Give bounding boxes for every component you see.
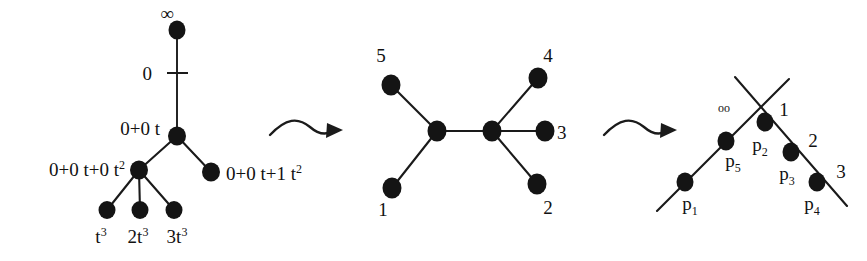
label-level2-left: 0+0 t+0 t2 bbox=[49, 158, 125, 180]
figure-root: ∞ 0 0+0 t 0+0 t+0 t2 0+0 t+1 t2 t3 2t3 3… bbox=[0, 0, 867, 261]
middle-label-2: 2 bbox=[543, 197, 553, 218]
label-leaf2-base: 2t bbox=[128, 226, 144, 247]
label-leaf2-exponent: 3 bbox=[142, 225, 148, 239]
label-level2-right: 0+0 t+1 t2 bbox=[226, 162, 302, 184]
label-leaf1: t3 bbox=[95, 225, 106, 247]
label-point-p2: p2 bbox=[752, 134, 768, 159]
label-point-p4-subscript: 4 bbox=[814, 204, 820, 218]
panel-left-tree: ∞ 0 0+0 t 0+0 t+0 t2 0+0 t+1 t2 t3 2t3 3… bbox=[0, 0, 867, 261]
label-root-infinity: ∞ bbox=[160, 3, 174, 24]
tree-node-leaf1 bbox=[99, 201, 116, 219]
label-root-edge-zero: 0 bbox=[143, 63, 153, 84]
label-point-p1-subscript: 1 bbox=[692, 204, 698, 218]
label-line-1: 1 bbox=[779, 99, 789, 120]
point-p3 bbox=[783, 143, 800, 162]
tree-node-leaf2 bbox=[132, 201, 149, 219]
label-point-p3-base: p bbox=[779, 163, 789, 184]
middle-node-center-left bbox=[428, 121, 447, 142]
label-level1: 0+0 t bbox=[120, 118, 160, 139]
label-level2-right-base: 0+0 t+1 t bbox=[226, 163, 297, 184]
label-point-p5: p5 bbox=[725, 150, 741, 175]
point-p5 bbox=[718, 132, 735, 151]
tree-node-v1 bbox=[168, 127, 186, 146]
edge-c2-n2 bbox=[492, 131, 537, 184]
label-point-p1-base: p bbox=[682, 193, 692, 214]
label-point-p5-subscript: 5 bbox=[735, 161, 741, 175]
tree-node-v3 bbox=[202, 163, 220, 182]
middle-tree-nodes bbox=[382, 68, 555, 199]
middle-node-1 bbox=[383, 178, 402, 199]
label-point-p4-base: p bbox=[804, 193, 814, 214]
label-level2-right-exponent: 2 bbox=[296, 162, 302, 176]
label-level2-left-base: 0+0 t+0 t bbox=[49, 159, 120, 180]
middle-node-5 bbox=[382, 75, 401, 96]
middle-label-5: 5 bbox=[376, 45, 386, 66]
label-point-p3-subscript: 3 bbox=[789, 174, 795, 188]
middle-node-center-right bbox=[483, 121, 502, 142]
point-p1 bbox=[677, 173, 694, 192]
middle-tree-edges bbox=[391, 78, 545, 188]
panel-right-lines: oo 1 2 3 p1 p5 p2 p3 p4 bbox=[657, 77, 847, 218]
right-line-nodes bbox=[677, 113, 826, 192]
middle-label-1: 1 bbox=[378, 199, 388, 220]
middle-label-4: 4 bbox=[543, 45, 553, 66]
label-level2-left-exponent: 2 bbox=[119, 158, 125, 172]
label-line-2: 2 bbox=[808, 130, 818, 151]
label-leaf3: 3t3 bbox=[167, 225, 188, 247]
label-leaf2: 2t3 bbox=[128, 225, 149, 247]
label-point-p2-base: p bbox=[752, 134, 762, 155]
arrow-left-to-middle-icon bbox=[270, 121, 343, 138]
arrow-middle-to-right-icon bbox=[604, 121, 677, 138]
label-point-p1: p1 bbox=[682, 193, 698, 218]
point-p2 bbox=[757, 113, 774, 132]
edge-n1-c1 bbox=[392, 131, 437, 188]
tree-node-leaf3 bbox=[166, 201, 183, 219]
label-point-p4: p4 bbox=[804, 193, 820, 218]
label-leaf3-base: 3t bbox=[167, 226, 183, 247]
middle-node-4 bbox=[529, 68, 548, 89]
panel-middle-tree: 5 4 3 2 1 bbox=[376, 45, 566, 220]
label-point-p5-base: p bbox=[725, 150, 735, 171]
middle-label-3: 3 bbox=[557, 122, 567, 143]
tree-node-v2 bbox=[130, 161, 148, 180]
point-p4 bbox=[809, 173, 826, 192]
label-leaf1-exponent: 3 bbox=[101, 225, 107, 239]
middle-node-3 bbox=[536, 121, 555, 142]
label-point-p2-subscript: 2 bbox=[762, 145, 768, 159]
label-line-3: 3 bbox=[836, 161, 846, 182]
middle-node-2 bbox=[528, 174, 547, 195]
label-leaf3-exponent: 3 bbox=[181, 225, 187, 239]
label-point-p3: p3 bbox=[779, 163, 795, 188]
edge-c2-n4 bbox=[492, 78, 538, 131]
label-infinity-oo: oo bbox=[718, 101, 730, 115]
